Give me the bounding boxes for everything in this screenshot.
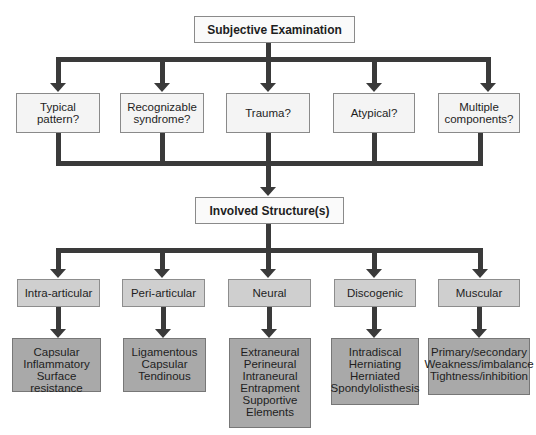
- question-box-atypical: Atypical?: [333, 93, 415, 133]
- detail-item: Intradiscal: [331, 346, 420, 358]
- category-label: Peri-articular: [131, 287, 196, 299]
- detail-item: Inflammatory: [13, 358, 100, 370]
- arrow-down-icon: [366, 329, 382, 338]
- connector-drop: [267, 307, 272, 331]
- detail-item: Extraneural: [240, 346, 299, 358]
- detail-box-muscular: Primary/secondary Weakness/imbalance Tig…: [428, 338, 530, 395]
- connector-drop: [478, 248, 483, 271]
- question-text: components?: [444, 113, 513, 125]
- question-text: Atypical?: [351, 107, 398, 119]
- arrow-down-icon: [50, 269, 66, 278]
- arrow-down-icon: [155, 329, 171, 338]
- involved-structures-label: Involved Structure(s): [209, 205, 329, 217]
- question-box-recognizable-syndrome: Recognizablesyndrome?: [120, 93, 204, 133]
- question-text: syndrome?: [127, 113, 197, 125]
- question-box-trauma: Trauma?: [226, 93, 310, 133]
- arrow-down-icon: [260, 187, 276, 196]
- arrow-down-icon: [472, 269, 488, 278]
- category-label: Intra-articular: [25, 287, 93, 299]
- detail-item: Surface resistance: [13, 370, 100, 394]
- arrow-down-icon: [154, 269, 170, 278]
- detail-item: Weakness/imbalance: [424, 358, 533, 370]
- detail-item: Capsular: [132, 358, 198, 370]
- connector-to-involved: [266, 161, 271, 189]
- arrow-down-icon: [50, 83, 66, 92]
- category-box-intra-articular: Intra-articular: [17, 279, 100, 307]
- detail-item: Herniating: [331, 358, 420, 370]
- connector-drop: [56, 248, 61, 271]
- connector-drop: [372, 57, 377, 85]
- category-box-discogenic: Discogenic: [334, 279, 416, 307]
- connector-drop: [160, 248, 165, 271]
- question-box-typical-pattern: Typicalpattern?: [16, 93, 100, 133]
- detail-item: Primary/secondary: [424, 346, 533, 358]
- connector-drop: [160, 57, 165, 85]
- connector-drop: [56, 57, 61, 85]
- connector-drop: [266, 57, 271, 85]
- detail-box-peri-articular: Ligamentous Capsular Tendinous: [123, 338, 206, 392]
- question-text: Trauma?: [245, 107, 291, 119]
- connector-top-bus: [56, 57, 491, 62]
- connector-drop: [372, 307, 377, 331]
- arrow-down-icon: [260, 83, 276, 92]
- detail-box-discogenic: Intradiscal Herniating Herniated Spondyl…: [331, 338, 419, 405]
- detail-item: Elements: [240, 406, 299, 418]
- arrow-down-icon: [471, 329, 487, 338]
- detail-item: Perineural: [240, 358, 299, 370]
- connector-drop: [486, 57, 491, 85]
- detail-item: Supportive: [240, 394, 299, 406]
- arrow-down-icon: [261, 329, 277, 338]
- connector-drop: [161, 307, 166, 331]
- detail-item: Ligamentous: [132, 346, 198, 358]
- detail-box-intra-articular: Capsular Inflammatory Surface resistance: [12, 338, 101, 392]
- question-text: Multiple: [444, 101, 513, 113]
- detail-box-neural: Extraneural Perineural Intraneural Entra…: [229, 338, 311, 428]
- category-label: Neural: [253, 287, 287, 299]
- question-box-multiple-components: Multiplecomponents?: [438, 93, 520, 133]
- category-label: Muscular: [456, 287, 503, 299]
- arrow-down-icon: [366, 269, 382, 278]
- subjective-examination-box: Subjective Examination: [194, 16, 355, 43]
- connector-drop: [56, 307, 61, 331]
- category-box-muscular: Muscular: [438, 279, 520, 307]
- connector-drop: [372, 248, 377, 271]
- category-label: Discogenic: [347, 287, 403, 299]
- arrow-down-icon: [366, 83, 382, 92]
- detail-item: Tightness/inhibition: [424, 370, 533, 382]
- detail-item: Entrapment: [240, 382, 299, 394]
- connector-drop: [477, 307, 482, 331]
- detail-item: Tendinous: [132, 370, 198, 382]
- subjective-examination-label: Subjective Examination: [207, 24, 342, 36]
- detail-item: Spondylolisthesis: [331, 382, 420, 394]
- question-text: Recognizable: [127, 101, 197, 113]
- question-text: pattern?: [37, 113, 79, 125]
- connector-drop: [266, 248, 271, 271]
- arrow-down-icon: [154, 83, 170, 92]
- arrow-down-icon: [50, 329, 66, 338]
- detail-item: Capsular: [13, 346, 100, 358]
- arrow-down-icon: [480, 83, 496, 92]
- category-box-neural: Neural: [228, 279, 311, 307]
- detail-item: Herniated: [331, 370, 420, 382]
- detail-item: Intraneural: [240, 370, 299, 382]
- arrow-down-icon: [260, 269, 276, 278]
- involved-structures-box: Involved Structure(s): [195, 197, 344, 224]
- question-text: Typical: [37, 101, 79, 113]
- category-box-peri-articular: Peri-articular: [122, 279, 205, 307]
